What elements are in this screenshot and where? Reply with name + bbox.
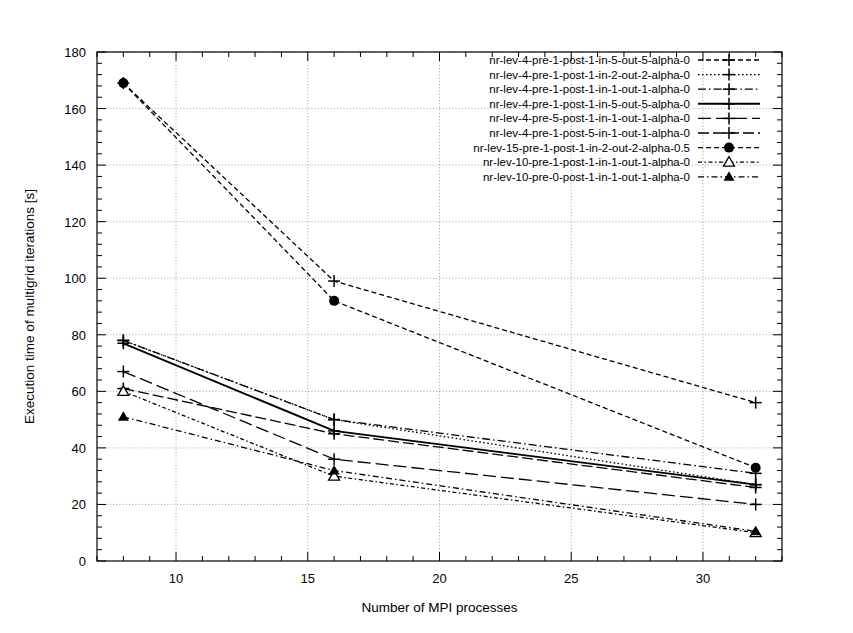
legend-label: nr-lev-4-pre-1-post-5-in-1-out-1-alpha-0	[489, 127, 690, 139]
y-tick-label: 180	[64, 45, 86, 60]
y-tick-label: 140	[64, 158, 86, 173]
marker-circle-filled	[751, 463, 761, 473]
y-tick-label: 60	[72, 384, 86, 399]
legend-label: nr-lev-4-pre-5-post-1-in-1-out-1-alpha-0	[489, 112, 690, 124]
legend-label: nr-lev-10-pre-1-post-1-in-1-out-1-alpha-…	[483, 156, 690, 168]
y-tick-label: 20	[72, 497, 86, 512]
y-axis-label: Execution time of multigrid iterations […	[22, 189, 37, 424]
multigrid-execution-time-chart: 0204060801001201401601801015202530Number…	[0, 0, 853, 633]
legend-label: nr-lev-15-pre-1-post-1-in-2-out-2-alpha-…	[473, 142, 690, 154]
y-tick-label: 80	[72, 328, 86, 343]
x-axis-label: Number of MPI processes	[361, 600, 517, 615]
y-tick-label: 40	[72, 441, 86, 456]
x-tick-label: 10	[169, 571, 183, 586]
legend-label: nr-lev-4-pre-1-post-1-in-5-out-5-alpha-0	[489, 54, 690, 66]
chart-background	[0, 0, 853, 633]
legend-label: nr-lev-4-pre-1-post-1-in-1-out-1-alpha-0	[489, 83, 690, 95]
y-tick-label: 0	[79, 554, 86, 569]
legend-label: nr-lev-4-pre-1-post-1-in-5-out-5-alpha-0	[489, 98, 690, 110]
marker-circle-filled	[329, 296, 339, 306]
x-tick-label: 25	[564, 571, 578, 586]
y-tick-label: 160	[64, 102, 86, 117]
x-tick-label: 15	[301, 571, 315, 586]
y-tick-label: 100	[64, 271, 86, 286]
legend-label: nr-lev-10-pre-0-post-1-in-1-out-1-alpha-…	[483, 171, 690, 183]
y-tick-label: 120	[64, 215, 86, 230]
marker-circle-filled	[724, 143, 734, 153]
x-tick-label: 20	[432, 571, 446, 586]
chart-page: 0204060801001201401601801015202530Number…	[0, 0, 853, 633]
marker-circle-filled	[118, 78, 128, 88]
legend-label: nr-lev-4-pre-1-post-1-in-2-out-2-alpha-0	[489, 69, 690, 81]
x-tick-label: 30	[696, 571, 710, 586]
